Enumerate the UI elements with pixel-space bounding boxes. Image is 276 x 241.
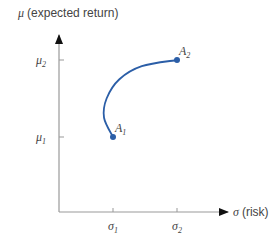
x-axis-label: σ(risk)	[233, 205, 269, 219]
point-label-A2: A2	[178, 44, 190, 60]
point-label-A1: A1	[114, 121, 126, 137]
y-tick-label: μ2	[35, 53, 46, 69]
y-axis-label: μ(expected return)	[17, 6, 118, 20]
chart: μ(expected return) σ(risk) σ1σ2μ1μ2 A1A2	[0, 0, 276, 241]
y-tick-label: μ1	[35, 130, 46, 146]
x-tick-label: σ1	[108, 219, 118, 235]
x-tick-label: σ2	[172, 219, 182, 235]
